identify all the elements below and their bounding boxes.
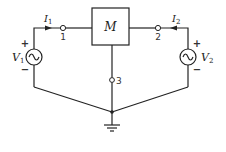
current-i1-label: I1 [43,13,52,26]
node-2-terminal [155,25,160,30]
v1-minus-label: − [21,64,29,75]
circuit-diagram: M 1 I1 2 I2 + − V1 + − V2 3 [0,0,226,152]
current-arrow-i1-icon [45,26,52,31]
node-3-terminal [110,78,115,83]
node-2-label: 2 [155,32,161,42]
block-label: M [103,20,117,34]
ground-icon [104,125,120,131]
source-v2-label: V2 [201,51,213,65]
node-1-terminal [60,25,65,30]
wire-right-top [161,28,188,49]
sine-wave-icon [29,54,39,60]
node-1-label: 1 [60,32,66,42]
current-arrow-i2-icon [170,26,177,31]
source-v1-label: V1 [12,51,24,65]
sine-wave-icon [183,54,193,60]
v2-minus-label: − [193,64,201,75]
node-3-label: 3 [116,76,122,86]
current-i2-label: I2 [171,13,180,26]
v2-plus-label: + [193,38,201,49]
v1-plus-label: + [21,38,29,49]
wire-left-top [34,28,60,49]
wire-v2-junction [112,87,188,112]
wire-v1-junction [34,87,112,112]
